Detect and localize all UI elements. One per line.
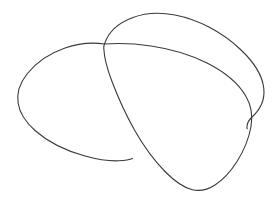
canvas-background xyxy=(0,0,278,205)
drawing-canvas xyxy=(0,0,278,205)
line-drawing-svg xyxy=(0,0,278,205)
